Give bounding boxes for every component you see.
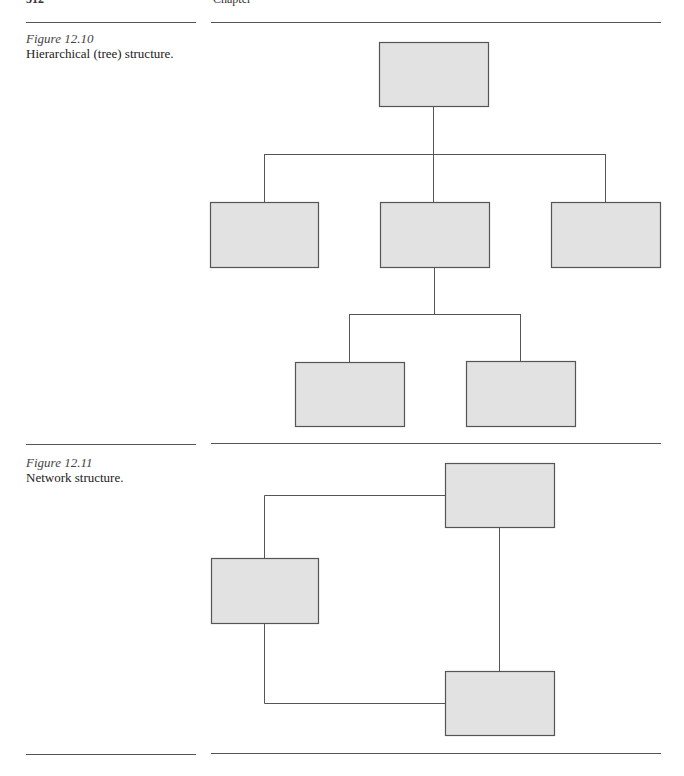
tree-node-child-right <box>467 362 576 427</box>
diagram-canvas <box>0 0 684 776</box>
network-nodes <box>212 464 555 736</box>
tree-nodes <box>211 43 661 427</box>
tree-node-right <box>552 203 661 268</box>
network-node-top <box>446 464 555 528</box>
tree-node-child-left <box>296 363 405 427</box>
network-node-bottom <box>446 672 555 736</box>
tree-node-root <box>380 43 489 107</box>
tree-node-left <box>211 203 319 268</box>
tree-node-middle <box>381 203 490 268</box>
network-node-left <box>212 559 319 624</box>
